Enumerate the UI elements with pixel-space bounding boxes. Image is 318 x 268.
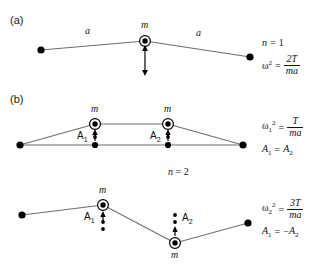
- fraction-a: 2T ma: [284, 54, 300, 76]
- panel-label-b: (b): [10, 93, 23, 105]
- omega-symbol-a: ω2: [262, 59, 272, 71]
- mass-dot-2-b2: [172, 240, 177, 245]
- amplitude-label-1-b2: A1: [84, 211, 95, 224]
- amplitude-arrow-head-1-b1: [92, 129, 97, 135]
- fraction-b2: 3T ma: [287, 198, 303, 220]
- mass-dot-2-b1: [165, 121, 170, 126]
- mass-dot-1-b1: [92, 121, 97, 126]
- amplitude-label-2-b1: A2: [150, 130, 161, 143]
- relation-right-b2: A2: [289, 225, 299, 239]
- mode-value-b: 2: [184, 166, 189, 177]
- equals-sign-freq-a: =: [275, 60, 281, 71]
- mode-number-b: n = 2: [168, 166, 189, 177]
- mode-number-a: n = 1: [262, 36, 300, 49]
- fraction-numerator-b1: T: [291, 116, 301, 127]
- fraction-numerator-a: 2T: [285, 54, 300, 65]
- string-segment-b2-right: [175, 223, 248, 243]
- fraction-denominator-b1: ma: [287, 127, 303, 139]
- equation-block-b2: ω22 = 3T ma A1 = − A2: [262, 198, 303, 243]
- fraction-numerator-b2: 3T: [288, 198, 303, 209]
- mass-label-1-b2: m: [99, 184, 106, 195]
- panel-b-lower-graphics: [18, 200, 251, 249]
- panel-b-upper-graphics: [16, 119, 246, 149]
- amplitude-label-2-b2: A2: [182, 212, 193, 225]
- amplitude-marker-2b-b2: [173, 213, 177, 217]
- relation-left-b2: A1: [262, 225, 272, 239]
- fixed-end-right-a: [246, 53, 253, 60]
- mass-label-2-b1: m: [164, 103, 171, 114]
- fixed-end-right-b2: [244, 219, 251, 226]
- equals-sign-relation-b2: =: [275, 226, 281, 237]
- omega-symbol-b2: ω22: [262, 201, 276, 216]
- string-segment-a-left: [41, 41, 145, 50]
- mass-label-1-b1: m: [91, 103, 98, 114]
- mass-dot-1-b2: [100, 202, 105, 207]
- length-label-a-left: a: [85, 25, 90, 36]
- fraction-denominator-a: ma: [284, 65, 300, 77]
- amplitude-marker-2a-b2: [173, 220, 177, 224]
- string-segment-b1-right: [168, 124, 243, 145]
- amplitude-arrow-head-2-b2: [172, 226, 177, 232]
- fraction-b1: T ma: [287, 116, 303, 138]
- amplitude-relation-b2: A1 = − A2: [262, 225, 303, 238]
- equation-block-a: n = 1 ω2 = 2T ma: [262, 36, 300, 79]
- mass-label-a: m: [141, 19, 148, 30]
- frequency-equation-b2: ω22 = 3T ma: [262, 198, 303, 220]
- amplitude-marker-1-b1: [93, 135, 97, 139]
- amplitude-marker-1b-b2: [101, 227, 105, 231]
- panel-a-graphics: [37, 36, 253, 76]
- equals-sign-freq-b1: =: [279, 122, 285, 133]
- amplitude-label-1-b1: A1: [77, 130, 88, 143]
- panel-label-a: (a): [10, 14, 23, 26]
- mode-value-a: 1: [279, 37, 284, 48]
- fraction-denominator-b2: ma: [287, 209, 303, 221]
- equals-sign-a: =: [270, 37, 276, 48]
- amplitude-arrow-head-1-b2: [100, 211, 105, 217]
- equation-block-b1: ω12 = T ma A1 = A2: [262, 116, 303, 161]
- length-label-a-right: a: [196, 27, 201, 38]
- equals-sign-freq-b2: =: [279, 204, 285, 215]
- amplitude-arrow-head-2-b1: [165, 129, 170, 135]
- amplitude-marker-2-b1: [166, 135, 170, 139]
- displacement-arrow-head-down-a: [142, 70, 148, 76]
- baseline-node-1-b1: [92, 142, 98, 148]
- string-segment-b2-middle: [103, 205, 175, 243]
- mode-symbol-n-b: n: [168, 166, 173, 177]
- equals-sign-relation-b1: =: [275, 144, 281, 155]
- mode-symbol-n-a: n: [262, 37, 267, 48]
- equals-sign-b: =: [176, 166, 182, 177]
- fixed-end-left-b1: [16, 141, 23, 148]
- baseline-node-2-b1: [165, 142, 171, 148]
- mass-label-2-b2: m: [171, 249, 178, 260]
- fixed-end-left-b2: [18, 211, 25, 218]
- frequency-equation-b1: ω12 = T ma: [262, 116, 303, 138]
- physics-normal-modes-figure: (a) (b) m a a n = 1 ω2 = 2T ma m m A1 A2…: [0, 0, 318, 268]
- omega-symbol-b1: ω12: [262, 119, 276, 134]
- frequency-equation-a: ω2 = 2T ma: [262, 54, 300, 76]
- amplitude-marker-1a-b2: [101, 220, 105, 224]
- string-segment-a-right: [145, 41, 250, 57]
- fixed-end-left-a: [37, 46, 44, 53]
- fixed-end-right-b1: [239, 141, 246, 148]
- relation-left-b1: A1: [262, 143, 272, 157]
- mass-dot-a: [142, 38, 147, 43]
- relation-right-b1: A2: [283, 143, 293, 157]
- amplitude-relation-b1: A1 = A2: [262, 143, 303, 156]
